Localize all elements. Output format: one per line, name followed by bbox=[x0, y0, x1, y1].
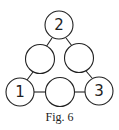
node-bottom-left: 1 bbox=[6, 78, 34, 106]
node-mid-right bbox=[65, 44, 94, 73]
edge-midright-bottomright bbox=[86, 71, 92, 78]
node-bottom-middle bbox=[46, 78, 75, 107]
node-label: 1 bbox=[15, 83, 25, 101]
edge-midleft-bottomleft bbox=[27, 72, 33, 80]
node-top: 2 bbox=[45, 11, 73, 39]
node-mid-left bbox=[26, 45, 55, 74]
node-label: 2 bbox=[54, 16, 64, 34]
node-label: 3 bbox=[94, 82, 104, 100]
triangle-circle-diagram: 2 1 3 bbox=[0, 0, 119, 110]
node-bottom-right: 3 bbox=[85, 77, 113, 105]
figure-caption: Fig. 6 bbox=[0, 110, 119, 125]
edge-top-midright bbox=[66, 38, 72, 46]
